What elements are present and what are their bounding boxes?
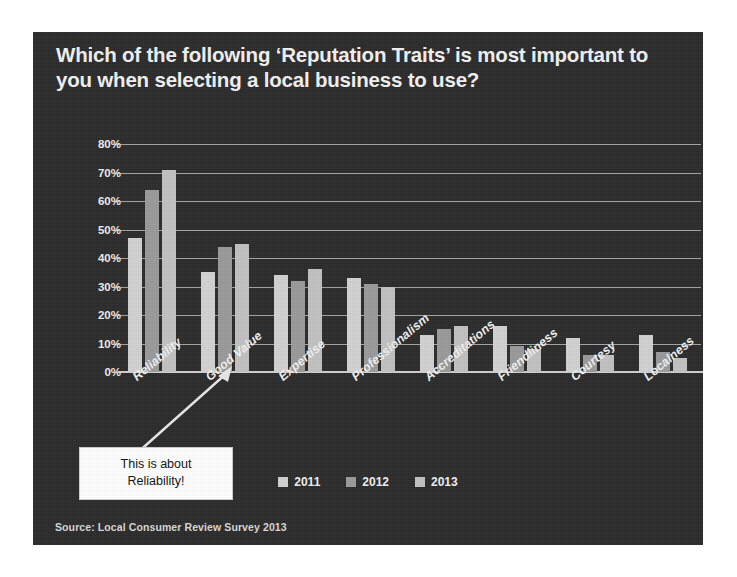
y-axis-tick-mark bbox=[113, 173, 119, 174]
legend-label-2013: 2013 bbox=[431, 475, 458, 489]
y-axis-tick-mark bbox=[113, 344, 119, 345]
bar-group bbox=[274, 144, 322, 372]
y-axis-tick-mark bbox=[113, 201, 119, 202]
legend-swatch-2012 bbox=[346, 477, 356, 487]
bar-group bbox=[639, 144, 687, 372]
y-axis-tick-mark bbox=[113, 287, 119, 288]
y-axis-tick-mark bbox=[113, 230, 119, 231]
callout-line-1: This is about bbox=[86, 456, 226, 473]
callout-box: This is about Reliability! bbox=[79, 447, 233, 500]
y-axis-tick-mark bbox=[113, 315, 119, 316]
legend-label-2012: 2012 bbox=[362, 475, 389, 489]
slide-panel: Which of the following ‘Reputation Trait… bbox=[33, 32, 703, 545]
bar-group bbox=[566, 144, 614, 372]
y-axis-tick-mark bbox=[113, 258, 119, 259]
bar-group bbox=[201, 144, 249, 372]
bar-2012-reliability bbox=[145, 190, 159, 372]
y-axis-tick-mark bbox=[113, 144, 119, 145]
y-axis-tick-mark bbox=[113, 372, 119, 373]
legend-swatch-2011 bbox=[278, 477, 288, 487]
bar-2011-professionalism bbox=[347, 278, 361, 372]
bar-2011-good-value bbox=[201, 272, 215, 372]
bar-group bbox=[493, 144, 541, 372]
bar-2011-expertise bbox=[274, 275, 288, 372]
legend-label-2011: 2011 bbox=[294, 475, 320, 489]
bar-group bbox=[128, 144, 176, 372]
legend-item-2012[interactable]: 2012 bbox=[346, 475, 389, 489]
legend-item-2011[interactable]: 2011 bbox=[278, 475, 320, 489]
callout-line-2: Reliability! bbox=[86, 473, 226, 490]
bar-2011-reliability bbox=[128, 238, 142, 372]
legend-swatch-2013 bbox=[415, 477, 425, 487]
legend-item-2013[interactable]: 2013 bbox=[415, 475, 458, 489]
source-note: Source: Local Consumer Review Survey 201… bbox=[55, 521, 287, 533]
bar-group bbox=[347, 144, 395, 372]
bar-group bbox=[420, 144, 468, 372]
